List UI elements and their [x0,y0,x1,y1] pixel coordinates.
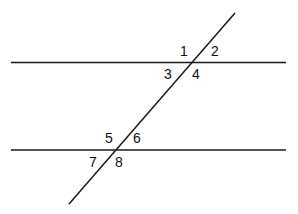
angle-label-7: 7 [89,155,97,169]
angle-label-6: 6 [133,131,141,145]
angle-label-4: 4 [192,67,200,81]
angle-label-1: 1 [180,44,188,58]
angle-label-2: 2 [211,44,219,58]
diagram-canvas [0,0,298,214]
angle-label-5: 5 [105,131,113,145]
angle-label-8: 8 [115,155,123,169]
transversal-line [69,13,235,204]
angle-label-3: 3 [164,67,172,81]
